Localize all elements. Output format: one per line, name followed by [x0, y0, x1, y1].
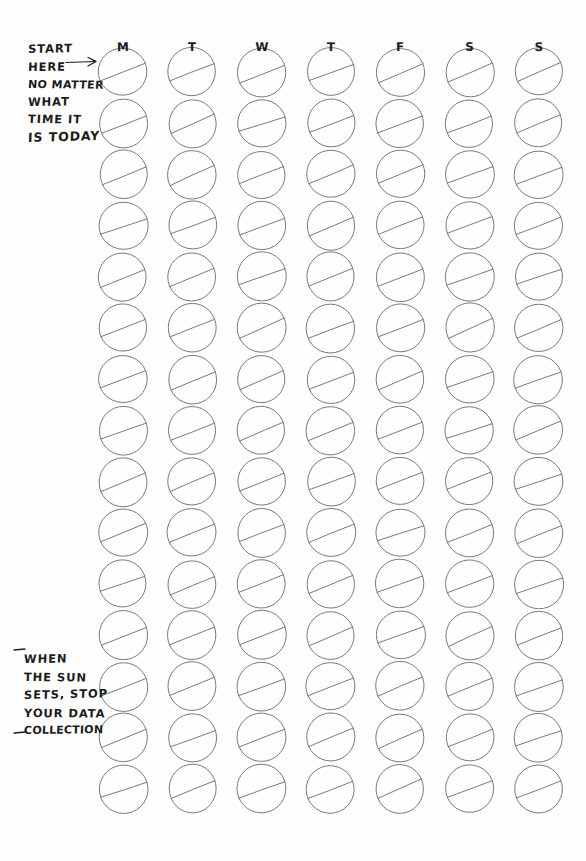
cell-circle[interactable]: [169, 714, 217, 762]
cell-circle[interactable]: [307, 612, 354, 660]
cell-circle[interactable]: [306, 304, 355, 354]
cell-circle[interactable]: [515, 611, 563, 660]
cell-circle[interactable]: [237, 457, 285, 505]
cell-circle[interactable]: [99, 202, 149, 250]
cell-circle[interactable]: [445, 765, 493, 813]
cell-circle[interactable]: [237, 99, 287, 147]
cell-circle[interactable]: [168, 355, 217, 404]
cell-circle[interactable]: [513, 405, 563, 455]
cell-circle[interactable]: [446, 612, 495, 661]
cell-circle[interactable]: [237, 610, 287, 660]
cell-circle[interactable]: [168, 662, 216, 711]
cell-circle[interactable]: [515, 99, 562, 147]
cell-circle[interactable]: [446, 201, 495, 249]
cell-circle[interactable]: [445, 100, 493, 148]
cell-circle[interactable]: [237, 713, 286, 761]
cell-circle[interactable]: [237, 355, 285, 403]
cell-circle[interactable]: [307, 356, 355, 404]
cell-circle[interactable]: [515, 252, 563, 300]
cell-circle[interactable]: [236, 764, 286, 814]
cell-circle[interactable]: [238, 152, 285, 199]
cell-circle[interactable]: [307, 99, 355, 147]
cell-circle[interactable]: [99, 458, 147, 507]
cell-circle[interactable]: [169, 201, 217, 250]
cell-circle[interactable]: [305, 406, 355, 455]
cell-circle[interactable]: [168, 560, 217, 608]
cell-circle[interactable]: [514, 457, 564, 506]
cell-circle[interactable]: [446, 714, 494, 762]
cell-circle[interactable]: [99, 304, 147, 352]
cell-circle[interactable]: [98, 48, 147, 96]
cell-circle[interactable]: [168, 458, 216, 505]
cell-circle[interactable]: [376, 99, 424, 148]
cell-circle[interactable]: [514, 713, 562, 762]
cell-circle[interactable]: [445, 150, 495, 198]
cell-circle[interactable]: [167, 47, 215, 96]
cell-circle[interactable]: [237, 560, 285, 609]
cell-circle[interactable]: [238, 201, 287, 250]
cell-circle[interactable]: [167, 610, 216, 659]
cell-circle[interactable]: [238, 508, 286, 557]
cell-circle[interactable]: [514, 202, 563, 249]
cell-circle[interactable]: [307, 47, 355, 95]
cell-circle[interactable]: [376, 661, 424, 710]
cell-circle[interactable]: [514, 304, 563, 352]
cell-circle[interactable]: [168, 303, 216, 352]
cell-circle[interactable]: [445, 457, 492, 504]
cell-circle[interactable]: [168, 253, 216, 301]
cell-circle[interactable]: [100, 99, 148, 148]
cell-circle[interactable]: [169, 99, 217, 148]
cell-circle[interactable]: [376, 457, 424, 504]
cell-circle[interactable]: [168, 406, 215, 454]
cell-circle[interactable]: [306, 662, 356, 710]
cell-circle[interactable]: [307, 251, 355, 301]
cell-circle[interactable]: [99, 765, 149, 814]
cell-circle[interactable]: [306, 766, 354, 814]
cell-circle[interactable]: [515, 47, 563, 95]
cell-circle[interactable]: [169, 764, 217, 813]
cell-circle[interactable]: [99, 406, 147, 455]
cell-circle[interactable]: [515, 509, 563, 558]
cell-circle[interactable]: [446, 662, 494, 711]
cell-circle[interactable]: [237, 303, 287, 353]
cell-circle[interactable]: [98, 253, 146, 301]
cell-circle[interactable]: [99, 560, 146, 608]
cell-circle[interactable]: [514, 356, 563, 404]
cell-circle[interactable]: [514, 151, 563, 198]
cell-circle[interactable]: [376, 764, 424, 814]
cell-circle[interactable]: [445, 355, 495, 403]
cell-circle[interactable]: [237, 406, 285, 455]
cell-circle[interactable]: [445, 560, 493, 608]
cell-circle[interactable]: [446, 303, 495, 353]
cell-circle[interactable]: [307, 713, 355, 761]
cell-circle[interactable]: [167, 150, 216, 199]
cell-circle[interactable]: [307, 508, 356, 556]
cell-circle[interactable]: [167, 508, 217, 556]
cell-circle[interactable]: [237, 252, 286, 302]
cell-circle[interactable]: [237, 48, 285, 97]
cell-circle[interactable]: [514, 662, 563, 712]
cell-circle[interactable]: [376, 304, 425, 353]
cell-circle[interactable]: [444, 406, 493, 454]
cell-circle[interactable]: [376, 150, 424, 197]
cell-circle[interactable]: [98, 509, 148, 557]
cell-circle[interactable]: [98, 355, 148, 403]
cell-circle[interactable]: [445, 253, 494, 302]
cell-circle[interactable]: [376, 509, 425, 556]
cell-circle[interactable]: [446, 48, 495, 97]
cell-circle[interactable]: [375, 559, 424, 608]
cell-circle[interactable]: [375, 714, 424, 763]
cell-circle[interactable]: [376, 252, 425, 302]
cell-circle[interactable]: [376, 406, 424, 455]
cell-circle[interactable]: [376, 611, 426, 659]
cell-circle[interactable]: [307, 457, 355, 506]
cell-circle[interactable]: [307, 201, 355, 251]
cell-circle[interactable]: [376, 355, 424, 403]
cell-circle[interactable]: [100, 150, 147, 199]
cell-circle[interactable]: [306, 150, 355, 197]
cell-circle[interactable]: [514, 764, 563, 813]
cell-circle[interactable]: [445, 509, 493, 557]
cell-circle[interactable]: [376, 201, 424, 249]
cell-circle[interactable]: [376, 48, 425, 96]
cell-circle[interactable]: [307, 561, 354, 608]
